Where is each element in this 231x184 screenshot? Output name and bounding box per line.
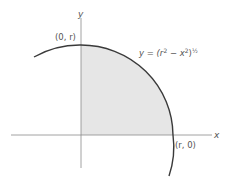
- quarter-circle-diagram: y x (0, r) (r, 0) y = (r2 − x2)½: [0, 0, 231, 184]
- shaded-region: [81, 45, 173, 135]
- point-label-right: (r, 0): [175, 140, 196, 150]
- point-label-top: (0, r): [55, 32, 76, 42]
- curve-equation-label: y = (r2 − x2)½: [138, 47, 198, 58]
- y-axis-label: y: [77, 9, 84, 19]
- x-axis-label: x: [213, 130, 220, 140]
